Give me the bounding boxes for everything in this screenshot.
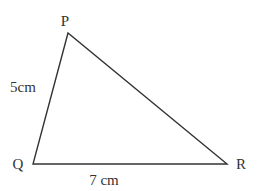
vertex-label-q: Q [13,156,24,172]
triangle-pqr [33,33,227,164]
vertex-label-r: R [236,156,246,172]
triangle-diagram: P Q R 5cm 7 cm [0,0,260,191]
side-label-qr: 7 cm [89,172,119,188]
vertex-label-p: P [61,13,69,29]
side-label-pq: 5cm [10,79,36,95]
